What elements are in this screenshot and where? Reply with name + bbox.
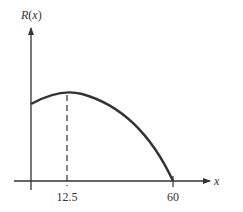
tick-label-12-5: 12.5 (57, 190, 78, 204)
revenue-chart: R(x) x 12.5 60 (0, 0, 243, 212)
x-axis-label: x (213, 174, 220, 188)
y-axis-label: R(x) (20, 8, 42, 22)
tick-label-60: 60 (167, 190, 179, 204)
revenue-curve (31, 92, 173, 181)
